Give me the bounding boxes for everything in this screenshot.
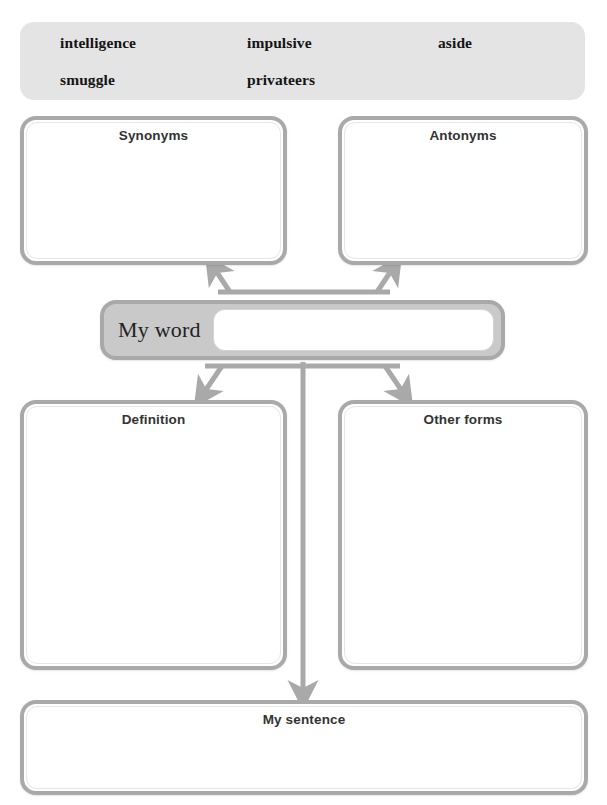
definition-label: Definition [24,412,283,427]
my-word-input[interactable] [213,309,494,351]
arrow-to-definition [203,366,222,394]
word-bank-item[interactable]: privateers [225,72,390,88]
word-bank: intelligence impulsive aside smuggle pri… [20,22,585,100]
other-forms-writing-area[interactable] [344,406,582,664]
definition-box[interactable]: Definition [20,400,287,670]
arrow-to-otherforms [385,366,404,394]
antonyms-label: Antonyms [342,128,584,143]
word-bank-item[interactable]: intelligence [60,35,225,51]
definition-writing-area[interactable] [26,406,281,664]
word-bank-item[interactable]: impulsive [225,35,390,51]
synonyms-label: Synonyms [24,128,283,143]
arrow-to-synonyms [214,268,230,292]
synonyms-box[interactable]: Synonyms [20,116,287,265]
other-forms-label: Other forms [342,412,584,427]
worksheet-canvas: intelligence impulsive aside smuggle pri… [0,0,607,805]
other-forms-box[interactable]: Other forms [338,400,588,670]
my-word-box[interactable]: My word [100,300,505,360]
antonyms-box[interactable]: Antonyms [338,116,588,265]
word-bank-item[interactable]: aside [390,35,555,51]
arrow-to-antonyms [377,268,393,292]
my-sentence-label: My sentence [24,712,584,727]
my-word-label: My word [118,317,213,343]
word-bank-item[interactable]: smuggle [60,72,225,88]
my-sentence-box[interactable]: My sentence [20,700,588,795]
